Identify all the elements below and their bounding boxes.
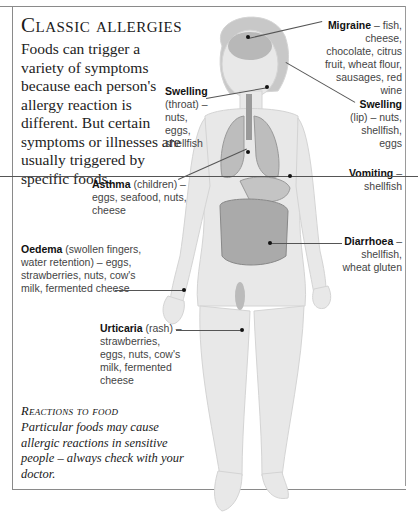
label-vomiting: Vomiting – shellfish xyxy=(340,167,402,193)
pointer-dot-thigh xyxy=(240,328,244,332)
pointer-dot-migraine xyxy=(246,35,250,39)
swelling-throat-text: (throat) – nuts, eggs, shellfish xyxy=(165,98,208,149)
label-asthma: Asthma (children) – eggs, seafood, nuts,… xyxy=(92,178,187,217)
swelling-lip-term: Swelling xyxy=(359,98,402,110)
leader-vomiting xyxy=(0,176,418,177)
migraine-term: Migraine xyxy=(328,19,371,31)
pointer-dot-bowel xyxy=(268,241,272,245)
label-oedema: Oedema (swollen fingers, water retention… xyxy=(21,243,146,295)
leader-diarrhoea xyxy=(270,243,342,244)
label-swelling-lip: Swelling (lip) – nuts, shellfish, eggs xyxy=(340,98,402,150)
footer-title: Reactions to food xyxy=(21,404,118,419)
label-urticaria: Urticaria (rash) – strawberries, eggs, n… xyxy=(100,322,185,387)
leader-oedema xyxy=(115,290,183,291)
leader-urticaria xyxy=(176,330,240,331)
frame-right-border xyxy=(405,6,406,486)
vomiting-term: Vomiting xyxy=(349,167,393,179)
pointer-dot-hand xyxy=(182,288,186,292)
oedema-term: Oedema xyxy=(21,243,62,255)
footer-text: Particular foods may cause allergic reac… xyxy=(21,420,191,482)
urticaria-term: Urticaria xyxy=(100,322,143,334)
swelling-throat-term: Swelling xyxy=(165,85,208,97)
label-swelling-throat: Swelling (throat) – nuts, eggs, shellfis… xyxy=(165,85,215,150)
diarrhoea-term: Diarrhoea xyxy=(344,235,393,247)
label-migraine: Migraine – fish, cheese, chocolate, citr… xyxy=(316,19,402,97)
asthma-term: Asthma xyxy=(92,178,131,190)
pointer-dot-lungs xyxy=(246,150,250,154)
pointer-dot-throat xyxy=(265,85,269,89)
page-title: Classic allergies xyxy=(21,14,182,36)
intro-paragraph: Foods can trigger a variety of symptoms … xyxy=(21,40,186,188)
label-diarrhoea: Diarrhoea – shellfish, wheat gluten xyxy=(340,235,402,274)
swelling-lip-text: (lip) – nuts, shellfish, eggs xyxy=(350,111,402,149)
pointer-dot-stomach xyxy=(288,174,292,178)
frame-left-border xyxy=(12,6,13,490)
